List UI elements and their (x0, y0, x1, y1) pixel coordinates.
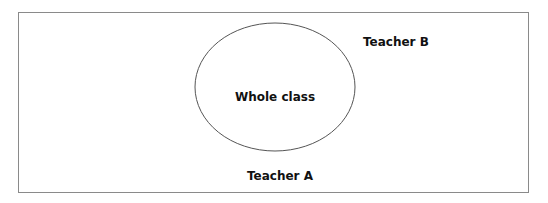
whole-class-ellipse (195, 23, 355, 151)
teacher-b-label: Teacher B (363, 35, 429, 49)
teacher-a-label: Teacher A (247, 169, 313, 183)
whole-class-label: Whole class (235, 90, 315, 104)
